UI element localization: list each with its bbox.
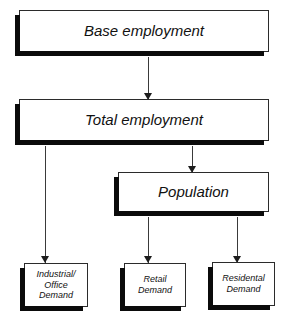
- node-residential-demand: Residental Demand: [212, 262, 275, 306]
- node-retail-demand: Retail Demand: [124, 263, 186, 307]
- node-base-employment-label: Base employment: [84, 22, 204, 40]
- node-population-label: Population: [158, 183, 229, 201]
- node-base-employment: Base employment: [19, 10, 269, 52]
- node-total-employment-label: Total employment: [85, 111, 203, 129]
- flowchart-canvas: Base employment Total employment Populat…: [0, 0, 288, 315]
- node-industrial-office-demand: Industrial/ Office Demand: [24, 263, 88, 307]
- node-residential-demand-label: Residental Demand: [222, 273, 265, 294]
- node-industrial-office-demand-label: Industrial/ Office Demand: [36, 269, 75, 301]
- node-population: Population: [118, 172, 269, 212]
- node-total-employment: Total employment: [19, 99, 269, 141]
- arrowhead-total-to-industrial: [41, 256, 49, 263]
- connector-total-to-industrial: [45, 146, 46, 264]
- node-retail-demand-label: Retail Demand: [138, 274, 172, 295]
- arrowhead-population-to-retail: [144, 256, 152, 263]
